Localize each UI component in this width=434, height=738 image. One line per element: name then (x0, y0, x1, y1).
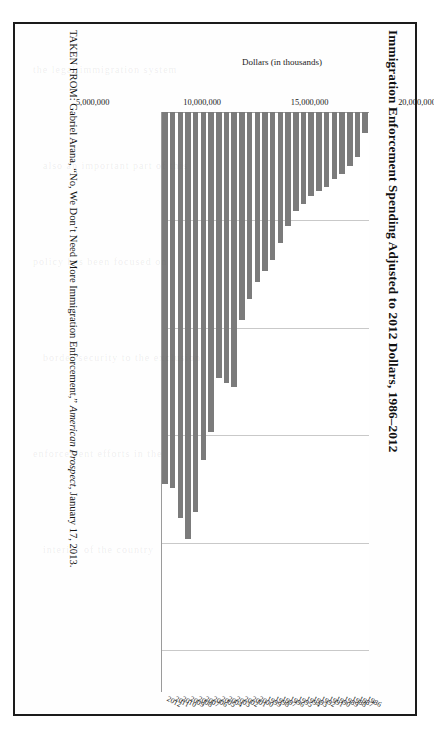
rotated-figure: Immigration Enforcement Spending Adjuste… (15, 24, 415, 714)
bar-2007 (201, 112, 207, 460)
bar-row (355, 112, 361, 692)
bar-row (231, 112, 237, 692)
bar-row (224, 112, 230, 692)
bar-row (208, 112, 214, 692)
bar-row (170, 112, 176, 692)
bar-row (339, 112, 345, 692)
bar-row (270, 112, 276, 692)
bar-1988 (347, 112, 353, 166)
bar-row (162, 112, 168, 692)
bar-row (332, 112, 338, 692)
figure-title: Immigration Enforcement Spending Adjuste… (385, 24, 401, 714)
bar-2009 (185, 112, 191, 539)
bar-2012 (162, 112, 168, 484)
bar-1990 (332, 112, 338, 179)
bar-2006 (208, 112, 214, 432)
bar-row (362, 112, 368, 692)
bar-1996 (285, 112, 291, 226)
bar-2008 (193, 112, 199, 512)
bar-1995 (293, 112, 299, 211)
bar-row (293, 112, 299, 692)
source-note: TAKEN FROM: Gabriel Arana, “No, We Don’t… (68, 30, 79, 714)
bar-2000 (255, 112, 261, 282)
bar-row (239, 112, 245, 692)
bar-1993 (308, 112, 314, 196)
bar-1998 (270, 112, 276, 260)
bars-layer (161, 112, 369, 692)
bar-1994 (301, 112, 307, 204)
bar-row (262, 112, 268, 692)
bar-2010 (178, 112, 184, 518)
bar-1989 (339, 112, 345, 174)
bar-2002 (239, 112, 245, 320)
page-frame: Immigration Enforcement Spending Adjuste… (13, 22, 417, 716)
source-publication: American Prospect (68, 406, 79, 487)
bar-2011 (170, 112, 176, 488)
bar-row (201, 112, 207, 692)
bar-row (193, 112, 199, 692)
bar-2005 (216, 112, 222, 378)
bar-row (255, 112, 261, 692)
plot-area (161, 112, 369, 692)
bar-row (308, 112, 314, 692)
bar-1997 (278, 112, 284, 243)
bar-2003 (231, 112, 237, 387)
bar-row (216, 112, 222, 692)
value-axis-title: Dollars (in thousands) (182, 57, 382, 67)
bar-row (324, 112, 330, 692)
bar-row (316, 112, 322, 692)
bar-row (247, 112, 253, 692)
bar-1999 (262, 112, 268, 271)
source-prefix: TAKEN FROM: Gabriel Arana, “No, We Don’t… (68, 30, 79, 406)
bar-row (278, 112, 284, 692)
bar-row (285, 112, 291, 692)
bar-2004 (224, 112, 230, 383)
bar-row (347, 112, 353, 692)
bar-1992 (316, 112, 322, 191)
value-axis-labels: 05,000,00010,000,00015,000,00020,000,000… (161, 24, 369, 110)
bar-1987 (355, 112, 361, 157)
value-axis-tick-label: 10,000,000 (183, 98, 221, 107)
bar-1991 (324, 112, 330, 187)
source-suffix: , January 17, 2013. (68, 487, 79, 568)
bar-1986 (362, 112, 368, 133)
value-axis-tick-label: 5,000,000 (76, 98, 110, 107)
bar-row (301, 112, 307, 692)
bar-2001 (247, 112, 253, 299)
value-axis-tick-label: 20,000,000 (398, 98, 434, 107)
bar-row (185, 112, 191, 692)
bar-row (178, 112, 184, 692)
value-axis-tick-label: 15,000,000 (291, 98, 329, 107)
